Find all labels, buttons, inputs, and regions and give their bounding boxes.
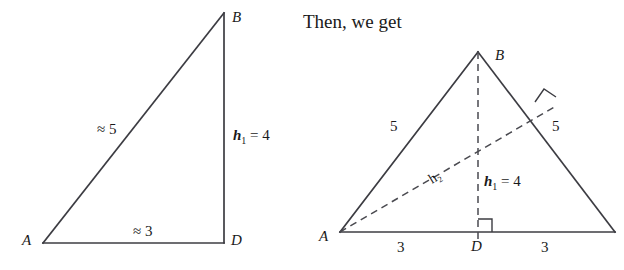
right-triangle-side-BC	[478, 52, 615, 232]
right-height-h2-label: h₂	[426, 168, 444, 187]
right-triangle-side-AB	[340, 52, 478, 232]
left-triangle-hypotenuse-AB	[43, 13, 224, 243]
geometry-figure-root: A B D ≈ 5 ≈ 3 h1 = 4 Then, we get A	[0, 0, 624, 270]
right-angle-mark-at-D	[478, 219, 492, 232]
right-vertex-label-D: D	[470, 238, 482, 254]
left-vertex-label-D: D	[230, 232, 242, 248]
right-side-BC-length-label: 5	[552, 118, 560, 134]
right-vertex-label-A: A	[318, 228, 329, 244]
left-base-length-label: ≈ 3	[133, 223, 152, 239]
left-hypotenuse-length-label: ≈ 5	[97, 121, 116, 137]
left-vertex-label-B: B	[232, 9, 241, 25]
right-triangle-group: A B D 5 5 3 3 h1 = 4 h₂	[318, 47, 615, 255]
left-triangle-group: A B D ≈ 5 ≈ 3 h1 = 4	[21, 9, 270, 248]
left-h1-equals-value: = 4	[246, 127, 270, 143]
right-side-AB-length-label: 5	[390, 118, 398, 134]
right-height-h1-label: h1 = 4	[484, 173, 521, 192]
right-h1-equals-value: = 4	[497, 173, 521, 189]
left-vertex-label-A: A	[21, 232, 32, 248]
right-base-right-length-label: 3	[541, 239, 549, 255]
left-h1-variable: h	[233, 127, 241, 143]
right-angle-mark-at-h2-foot	[535, 89, 556, 102]
geometry-diagram-svg: A B D ≈ 5 ≈ 3 h1 = 4 Then, we get A	[0, 0, 624, 270]
right-vertex-label-B: B	[495, 47, 504, 63]
left-height-h1-label: h1 = 4	[233, 127, 270, 146]
connector-text: Then, we get	[303, 11, 402, 32]
right-h1-variable: h	[484, 173, 492, 189]
altitude-h2-dashed-AE	[340, 106, 556, 232]
right-base-left-length-label: 3	[397, 239, 405, 255]
